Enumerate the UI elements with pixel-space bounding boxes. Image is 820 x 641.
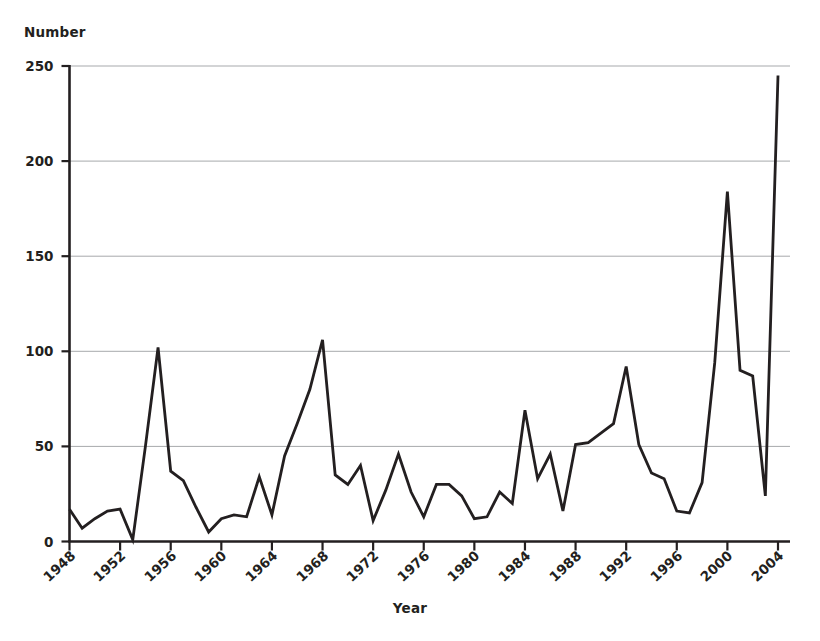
y-tick-label: 100 bbox=[2, 343, 54, 359]
x-axis-title: Year bbox=[0, 600, 820, 616]
y-axis-title: Number bbox=[24, 24, 86, 40]
y-tick-label: 150 bbox=[2, 248, 54, 264]
plot-area bbox=[0, 0, 820, 641]
line-chart: Number Year 050100150200250 194819521956… bbox=[0, 0, 820, 641]
y-tick-label: 250 bbox=[2, 58, 54, 74]
y-tick-label: 50 bbox=[2, 438, 54, 454]
y-tick-label: 200 bbox=[2, 153, 54, 169]
data-series-line bbox=[70, 76, 779, 540]
y-tick-label: 0 bbox=[2, 534, 54, 550]
